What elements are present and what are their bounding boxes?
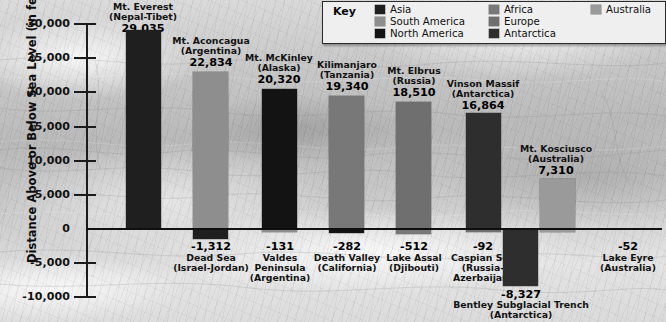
- bar-aconcagua[interactable]: [193, 72, 228, 228]
- y-tick-10000: [74, 160, 96, 162]
- bar-dead-sea[interactable]: [193, 230, 228, 239]
- legend-item-australia[interactable]: Australia: [591, 4, 651, 15]
- bar-place-valdes: (Argentina): [233, 273, 327, 283]
- bar-everest[interactable]: [126, 30, 161, 228]
- y-tick-5000: [74, 194, 96, 196]
- y-tick-25000: [74, 57, 96, 59]
- legend-title: Key: [333, 5, 356, 18]
- legend-label-africa: Africa: [504, 4, 533, 15]
- bar-lake-assal[interactable]: [396, 230, 431, 234]
- bar-valdes-peninsula[interactable]: [262, 230, 297, 232]
- legend-swatch-antarctica-icon: [489, 29, 499, 38]
- bar-value-vinson: 16,864: [433, 99, 533, 112]
- legend-item-south-america[interactable]: South America: [375, 16, 465, 27]
- legend-item-europe[interactable]: Europe: [489, 16, 540, 27]
- bar-place-everest: (Nepal-Tibet): [92, 12, 194, 22]
- legend-label-europe: Europe: [504, 16, 540, 27]
- zero-baseline: [86, 228, 662, 230]
- legend-label-south-america: South America: [390, 16, 465, 27]
- bar-elbrus[interactable]: [396, 102, 431, 228]
- bar-label-kosciusco: Mt. Kosciusco (Australia): [506, 144, 606, 164]
- y-tick-label-30000: 30,000: [6, 17, 70, 30]
- legend-swatch-europe-icon: [489, 17, 499, 26]
- bar-place-bentley: (Antarctica): [424, 310, 618, 320]
- bar-kosciusco[interactable]: [540, 179, 575, 228]
- bar-label-lake-eyre: Lake Eyre (Australia): [594, 253, 662, 273]
- y-tick-15000: [74, 126, 96, 128]
- bar-death-valley[interactable]: [329, 230, 364, 233]
- legend-swatch-south-america-icon: [375, 17, 385, 26]
- bar-label-everest: Mt. Everest (Nepal-Tibet): [92, 2, 194, 22]
- bar-mckinley[interactable]: [262, 89, 297, 228]
- legend-item-asia[interactable]: Asia: [375, 4, 411, 15]
- legend-swatch-north-america-icon: [375, 29, 385, 38]
- y-tick-label-10000: 10,000: [6, 154, 70, 167]
- y-tick-minus5000: [74, 262, 96, 264]
- legend-swatch-africa-icon: [489, 5, 499, 14]
- chart-canvas: Distance Above or Below Sea Level (in fe…: [0, 0, 666, 322]
- legend-label-australia: Australia: [606, 4, 651, 15]
- bar-place-lake-eyre: (Australia): [594, 263, 662, 273]
- legend-swatch-australia-icon: [591, 5, 601, 14]
- bar-bentley-subglacial-trench[interactable]: [503, 230, 538, 286]
- legend-item-north-america[interactable]: North America: [375, 28, 464, 39]
- y-tick-label-minus10000: -10,000: [4, 290, 70, 303]
- y-tick-label-5000: 5,000: [6, 188, 70, 201]
- legend-label-antarctica: Antarctica: [504, 28, 556, 39]
- legend-swatch-asia-icon: [375, 5, 385, 14]
- y-tick-label-minus5000: -5,000: [6, 256, 70, 269]
- y-tick-label-15000: 15,000: [6, 120, 70, 133]
- y-tick-minus10000: [74, 296, 96, 298]
- legend-label-north-america: North America: [390, 28, 464, 39]
- legend-item-africa[interactable]: Africa: [489, 4, 533, 15]
- bar-value-kosciusco: 7,310: [506, 164, 606, 177]
- bar-place-vinson: (Antarctica): [433, 89, 533, 99]
- bar-place-kosciusco: (Australia): [506, 154, 606, 164]
- bar-vinson[interactable]: [466, 113, 501, 228]
- bar-label-vinson: Vinson Massif (Antarctica): [433, 79, 533, 99]
- bar-kilimanjaro[interactable]: [329, 96, 364, 228]
- bar-caspian-sea[interactable]: [466, 230, 501, 232]
- bar-label-bentley: Bentley Subglacial Trench (Antarctica): [424, 300, 618, 320]
- legend-item-antarctica[interactable]: Antarctica: [489, 28, 556, 39]
- y-tick-label-20000: 20,000: [6, 85, 70, 98]
- bar-lake-eyre[interactable]: [540, 230, 575, 232]
- legend-label-asia: Asia: [390, 4, 411, 15]
- y-tick-label-25000: 25,000: [6, 51, 70, 64]
- y-tick-label-0: 0: [6, 222, 70, 235]
- y-tick-20000: [74, 91, 96, 93]
